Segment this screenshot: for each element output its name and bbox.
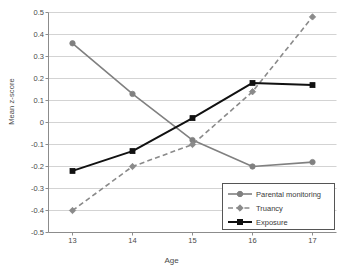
legend-swatch-circle-icon [227, 188, 253, 200]
data-point-square [190, 116, 195, 121]
x-axis-tick-label: 17 [301, 236, 325, 245]
data-point-circle [310, 159, 315, 164]
data-point-diamond [129, 163, 135, 169]
legend-swatch-square-icon [227, 216, 253, 228]
data-point-diamond [309, 14, 315, 20]
legend-item-exposure[interactable]: Exposure [227, 215, 288, 229]
series-line-truancy [73, 17, 313, 211]
legend-label: Truancy [256, 204, 283, 213]
data-point-circle [70, 41, 75, 46]
data-point-square [70, 168, 75, 173]
data-point-square [310, 83, 315, 88]
x-axis-title: Age [0, 256, 343, 265]
x-axis-tick-label: 16 [241, 236, 265, 245]
legend-label: Exposure [256, 218, 288, 227]
x-axis-tick-label: 13 [61, 236, 85, 245]
legend-item-truancy[interactable]: Truancy [227, 201, 283, 215]
x-axis-tick-labels: 1314151617 [0, 236, 343, 250]
data-point-square [250, 80, 255, 85]
series-line-exposure [73, 83, 313, 171]
data-point-circle [250, 164, 255, 169]
legend-swatch-diamond-icon [227, 202, 253, 214]
data-point-square [130, 149, 135, 154]
plot-area [0, 0, 343, 276]
chart-legend: Parental monitoringTruancyExposure [222, 183, 335, 230]
legend-label: Parental monitoring [256, 190, 321, 199]
x-axis-tick-label: 14 [121, 236, 145, 245]
legend-item-parental-monitoring[interactable]: Parental monitoring [227, 187, 321, 201]
line-chart: Mean z-score 0.50.40.30.20.10-0.1-0.2-0.… [0, 0, 343, 276]
x-axis-tick-label: 15 [181, 236, 205, 245]
data-point-circle [130, 91, 135, 96]
